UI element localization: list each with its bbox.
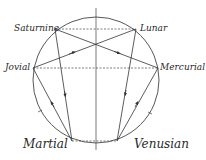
label-mercurial: Mercurial (160, 63, 205, 72)
label-venusian: Venusian (134, 138, 189, 150)
label-jovial: Jovial (5, 63, 30, 72)
label-saturnine: Saturnine (14, 24, 59, 33)
edge-saturnine-mercurial (55, 29, 158, 68)
edge-jovial-lunar (33, 29, 136, 68)
label-martial: Martial (23, 138, 68, 150)
label-lunar: Lunar (140, 24, 167, 33)
arrow-icon (52, 103, 55, 108)
edge-saturnine-martial (55, 29, 72, 141)
arrow-icon (114, 51, 119, 53)
